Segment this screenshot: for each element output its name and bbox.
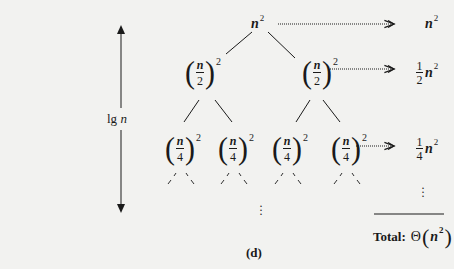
edges-level-2 — [184, 100, 340, 122]
root-node: n2 — [251, 14, 264, 32]
level2-node-3: ( n4 )2 — [272, 134, 308, 164]
level2-node-4: ( n4 )2 — [331, 134, 367, 164]
level-sum-2: 14 n2 — [416, 136, 438, 162]
sum-continuation-dots: ··· — [421, 186, 425, 198]
height-label-var: n — [120, 111, 127, 126]
height-label-prefix: lg — [107, 111, 117, 126]
tree-continuation-dots: ··· — [259, 204, 263, 216]
level2-node-1: ( n4 )2 — [165, 134, 201, 164]
edges-level-3 — [168, 173, 360, 184]
level2-node-2: ( n4 )2 — [218, 134, 254, 164]
figure-caption: (d) — [246, 245, 262, 261]
level1-node-right: ( n2 )2 — [302, 58, 338, 88]
height-label: lg n — [107, 111, 127, 127]
level1-node-left: ( n2 )2 — [185, 58, 221, 88]
level-sum-0: n2 — [425, 14, 438, 32]
level-sum-1: 12 n2 — [416, 60, 438, 86]
total-label: Total: Θ ( n2 ) — [373, 224, 453, 250]
edges-level-1 — [226, 32, 295, 58]
